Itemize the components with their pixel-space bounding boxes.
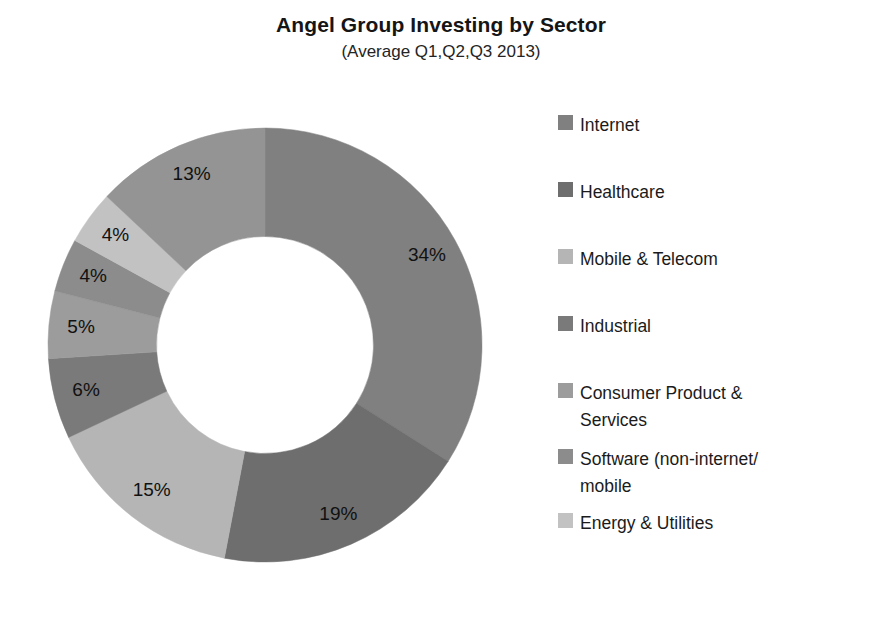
donut-plot-area: 34%19%15%6%5%4%4%13% xyxy=(40,112,500,582)
donut-slices xyxy=(48,128,482,562)
slice-data-label: 4% xyxy=(102,224,130,245)
legend-swatch-icon xyxy=(558,115,573,130)
slice-data-label: 13% xyxy=(173,163,211,184)
legend-item[interactable]: Internet xyxy=(558,112,878,139)
legend-item[interactable]: Healthcare xyxy=(558,179,878,206)
legend-item[interactable]: Industrial xyxy=(558,313,878,340)
donut-svg: 34%19%15%6%5%4%4%13% xyxy=(40,112,500,582)
legend-item[interactable]: Software (non-internet/ mobile xyxy=(558,446,878,500)
legend-item-label: Software (non-internet/ mobile xyxy=(580,446,758,500)
legend-item-label: Mobile & Telecom xyxy=(580,246,718,273)
slice-data-label: 34% xyxy=(408,244,446,265)
donut-chart-figure: Angel Group Investing by Sector (Average… xyxy=(0,0,882,633)
legend-swatch-icon xyxy=(558,449,573,464)
legend-item-label: Energy & Utilities xyxy=(580,510,713,537)
chart-legend: InternetHealthcareMobile & TelecomIndust… xyxy=(558,112,878,537)
legend-item[interactable]: Mobile & Telecom xyxy=(558,246,878,273)
slice-data-label: 19% xyxy=(319,503,357,524)
slice-data-label: 4% xyxy=(79,265,107,286)
legend-item-label: Healthcare xyxy=(580,179,665,206)
legend-swatch-icon xyxy=(558,316,573,331)
donut-slice[interactable] xyxy=(265,128,482,461)
slice-data-label: 5% xyxy=(67,316,95,337)
legend-swatch-icon xyxy=(558,383,573,398)
title-block: Angel Group Investing by Sector (Average… xyxy=(0,12,882,64)
chart-subtitle: (Average Q1,Q2,Q3 2013) xyxy=(0,40,882,64)
slice-data-label: 15% xyxy=(133,479,171,500)
legend-item-label: Internet xyxy=(580,112,639,139)
legend-swatch-icon xyxy=(558,249,573,264)
legend-swatch-icon xyxy=(558,182,573,197)
page-title: Angel Group Investing by Sector xyxy=(0,12,882,38)
legend-item-label: Consumer Product & Services xyxy=(580,380,742,434)
slice-data-label: 6% xyxy=(72,379,100,400)
legend-swatch-icon xyxy=(558,513,573,528)
legend-item-label: Industrial xyxy=(580,313,651,340)
legend-item[interactable]: Consumer Product & Services xyxy=(558,380,878,434)
legend-item[interactable]: Energy & Utilities xyxy=(558,510,878,537)
